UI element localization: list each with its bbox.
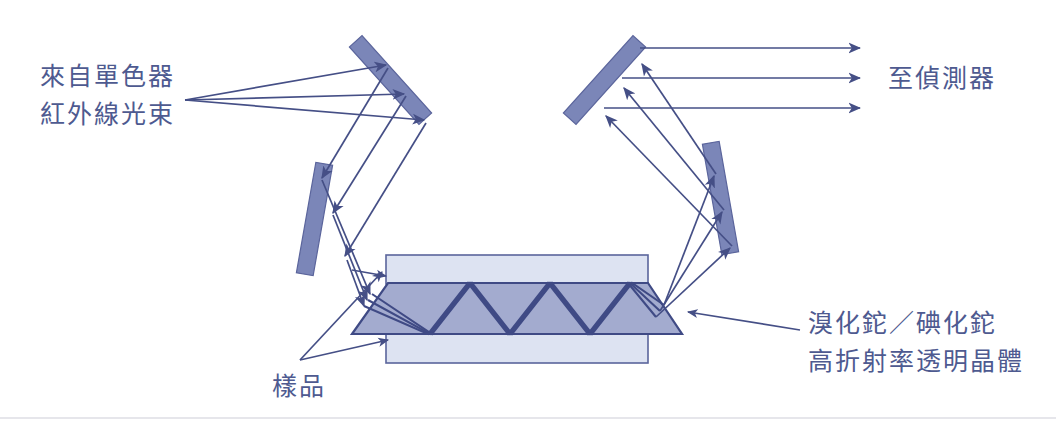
sample-layer-lower [386,334,648,363]
crystal-material-label-line1: 溴化鉈／碘化鉈 [808,305,1024,343]
crystal-material-label-line2: 高折射率透明晶體 [808,343,1024,381]
mirror-top-right [563,36,645,125]
sample-layer-upper [386,255,648,284]
sample-label: 樣品 [272,368,326,406]
mirror-lower-right [702,141,738,254]
atr-optical-diagram: 來自單色器 紅外線光束 至偵測器 溴化鉈／碘化鉈 高折射率透明晶體 樣品 [0,0,1056,426]
ir-beam-source-label: 來自單色器 紅外線光束 [40,58,175,134]
detector-label: 至偵測器 [888,60,996,98]
detector-label-line1: 至偵測器 [888,60,996,98]
crystal-material-label: 溴化鉈／碘化鉈 高折射率透明晶體 [808,305,1024,381]
ray-lowerleft-to-crystal [322,180,386,306]
mirror-lower-left [296,162,332,275]
output-ray-bundle [604,48,860,108]
sample-label-line1: 樣品 [272,368,326,406]
crystal-label-leader [688,312,800,330]
ir-beam-source-label-line2: 紅外線光束 [40,96,175,134]
ir-beam-source-label-line1: 來自單色器 [40,58,175,96]
